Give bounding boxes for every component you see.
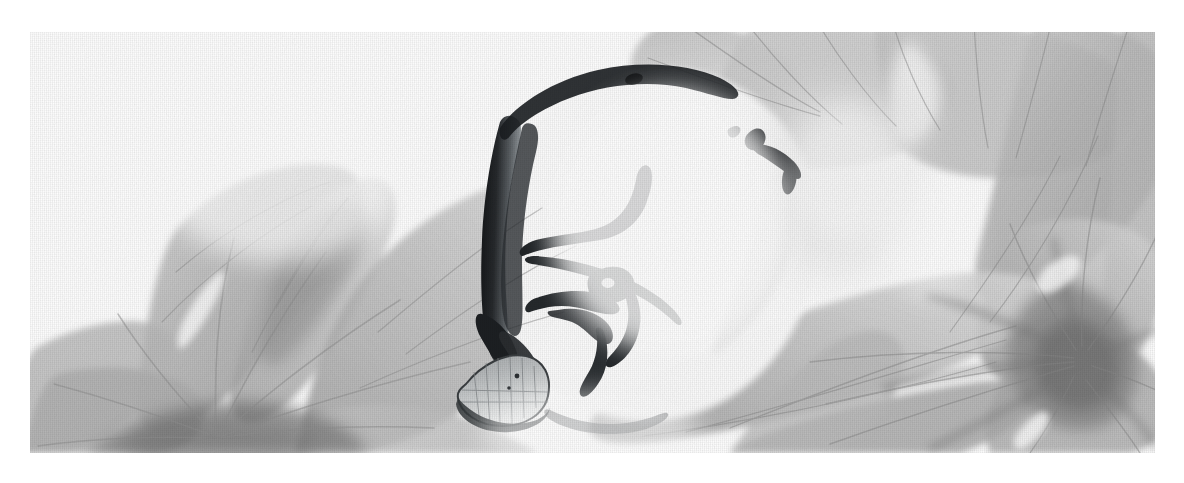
page-margin-right <box>1155 0 1184 483</box>
page-margin-top <box>0 0 1184 32</box>
page-margin-left <box>0 0 30 483</box>
artwork-canvas <box>0 0 1184 483</box>
highlights <box>30 32 1155 453</box>
image-plate <box>30 32 1155 453</box>
highlight-layer <box>30 32 1155 453</box>
page-margin-bottom <box>0 453 1184 483</box>
